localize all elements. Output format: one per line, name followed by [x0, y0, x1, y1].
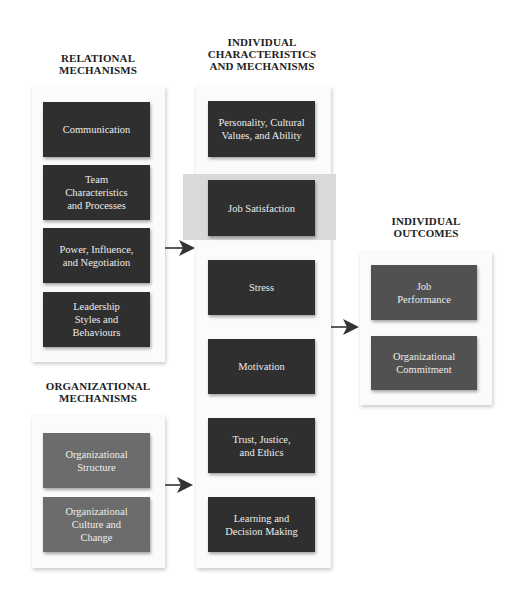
- outcomes-heading: INDIVIDUAL OUTCOMES: [366, 215, 486, 239]
- relational-box-leadership: Leadership Styles and Behaviours: [43, 292, 150, 347]
- relational-box-power: Power, Influence, and Negotiation: [43, 228, 150, 283]
- individual-box-job-satisfaction: Job Satisfaction: [208, 180, 315, 236]
- relational-heading: RELATIONAL MECHANISMS: [38, 52, 158, 76]
- relational-box-team: Team Characteristics and Processes: [43, 165, 150, 220]
- individual-box-learning: Learning and Decision Making: [208, 497, 315, 552]
- organizational-box-structure: Organizational Structure: [43, 433, 150, 488]
- individual-heading: INDIVIDUAL CHARACTERISTICS AND MECHANISM…: [192, 36, 332, 72]
- individual-box-trust: Trust, Justice, and Ethics: [208, 418, 315, 473]
- organizational-heading: ORGANIZATIONAL MECHANISMS: [33, 380, 163, 404]
- organizational-box-culture: Organizational Culture and Change: [43, 497, 150, 552]
- arrow-right-icon: [165, 475, 195, 495]
- outcome-box-job-performance: Job Performance: [371, 265, 477, 320]
- individual-box-personality: Personality, Cultural Values, and Abilit…: [208, 101, 315, 157]
- individual-panel: [196, 86, 331, 568]
- arrow-right-icon: [331, 317, 361, 337]
- individual-box-motivation: Motivation: [208, 339, 315, 394]
- outcome-box-organizational-commitment: Organizational Commitment: [371, 336, 477, 390]
- relational-box-communication: Communication: [43, 102, 150, 157]
- individual-box-stress: Stress: [208, 260, 315, 315]
- arrow-right-icon: [165, 238, 197, 258]
